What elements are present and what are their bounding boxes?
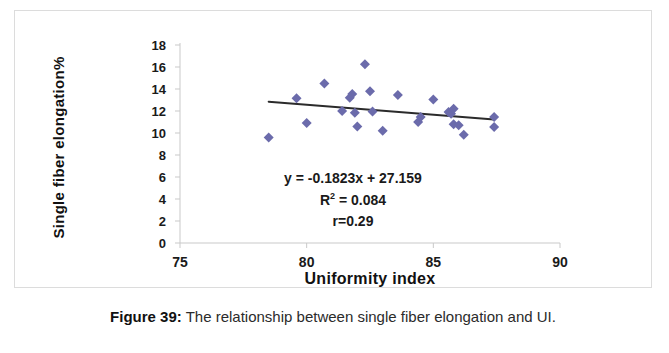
data-points	[264, 59, 499, 142]
data-point	[393, 90, 403, 100]
chart-plot-area: 024681012141618 75808590 Single fiber el…	[0, 0, 669, 353]
y-tick-label-14: 14	[140, 83, 166, 96]
x-tick-label-90: 90	[540, 255, 580, 269]
regression-equation: y = -0.1823x + 27.159	[228, 168, 478, 190]
data-point	[302, 118, 312, 128]
data-point	[368, 107, 378, 117]
y-axis-title: Single fiber elongation%	[50, 38, 67, 258]
y-tick-label-18: 18	[140, 39, 166, 52]
trendline	[269, 102, 494, 120]
data-point	[360, 59, 370, 69]
y-tick-label-16: 16	[140, 61, 166, 74]
y-tick-label-6: 6	[140, 171, 166, 184]
x-tick-label-75: 75	[160, 255, 200, 269]
r-squared-value: = 0.084	[335, 192, 386, 208]
x-tick-label-85: 85	[413, 255, 453, 269]
r-squared-annotation: R2 = 0.084	[228, 190, 478, 212]
data-point	[428, 94, 438, 104]
y-tick-label-10: 10	[140, 127, 166, 140]
r-squared-symbol: R	[320, 192, 330, 208]
y-tick-label-4: 4	[140, 193, 166, 206]
figure-container: 024681012141618 75808590 Single fiber el…	[0, 0, 669, 353]
data-point	[489, 122, 499, 132]
regression-annotations: y = -0.1823x + 27.159 R2 = 0.084 r=0.29	[228, 168, 478, 233]
y-tick-label-2: 2	[140, 215, 166, 228]
data-point	[264, 132, 274, 142]
figure-caption-text: The relationship between single fiber el…	[182, 308, 556, 325]
y-tick-label-8: 8	[140, 149, 166, 162]
data-point	[292, 93, 302, 103]
y-tick-label-12: 12	[140, 105, 166, 118]
data-point	[459, 130, 469, 140]
r-value-annotation: r=0.29	[228, 211, 478, 233]
y-tick-label-0: 0	[140, 237, 166, 250]
x-tick-label-80: 80	[287, 255, 327, 269]
data-point	[489, 112, 499, 122]
data-point	[365, 86, 375, 96]
data-point	[378, 126, 388, 136]
x-axis-title: Uniformity index	[180, 270, 560, 288]
data-point	[319, 79, 329, 89]
data-point	[352, 121, 362, 131]
figure-caption-label: Figure 39:	[110, 308, 182, 325]
figure-caption: Figure 39: The relationship between sing…	[14, 308, 652, 325]
